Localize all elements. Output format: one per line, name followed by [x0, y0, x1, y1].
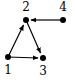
edge-1-3	[8, 57, 38, 58]
directed-graph: 1 2 3 4	[0, 0, 75, 80]
edge-2-3	[26, 20, 41, 53]
node-4	[60, 17, 66, 23]
edge-1-2	[8, 25, 24, 57]
node-1	[5, 54, 11, 60]
node-label-4: 4	[59, 0, 67, 14]
node-2	[23, 17, 29, 23]
node-label-1: 1	[4, 63, 12, 77]
node-3	[40, 55, 46, 61]
node-label-3: 3	[39, 64, 47, 78]
node-label-2: 2	[22, 0, 30, 14]
